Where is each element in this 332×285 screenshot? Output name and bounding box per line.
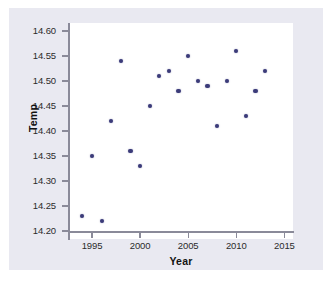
scatter-point bbox=[196, 79, 200, 83]
x-tick-label: 2015 bbox=[264, 241, 304, 251]
plot-area bbox=[68, 23, 293, 239]
x-tick-label: 2010 bbox=[216, 241, 256, 251]
y-tick bbox=[62, 30, 68, 31]
y-tick bbox=[62, 105, 68, 106]
y-tick bbox=[62, 205, 68, 206]
scatter-point bbox=[119, 59, 123, 63]
x-axis-line bbox=[68, 231, 294, 233]
y-tick-label: 14.20 bbox=[10, 226, 56, 236]
x-tick bbox=[139, 232, 140, 238]
y-axis-title: Temp bbox=[27, 88, 39, 148]
x-tick-label: 1995 bbox=[72, 241, 112, 251]
y-tick-label: 14.60 bbox=[10, 26, 56, 36]
scatter-point bbox=[100, 219, 104, 223]
y-tick bbox=[62, 80, 68, 81]
y-tick bbox=[62, 55, 68, 56]
x-tick-label: 2005 bbox=[168, 241, 208, 251]
scatter-point bbox=[244, 114, 248, 118]
x-tick bbox=[91, 232, 92, 238]
chart-figure: 14.2014.2514.3014.3514.4014.4514.5014.55… bbox=[9, 8, 323, 270]
y-tick-label: 14.25 bbox=[10, 201, 56, 211]
x-tick bbox=[284, 232, 285, 238]
x-tick bbox=[236, 232, 237, 238]
y-tick-label: 14.50 bbox=[10, 76, 56, 86]
y-tick bbox=[62, 180, 68, 181]
x-tick bbox=[188, 232, 189, 238]
scatter-point bbox=[205, 84, 209, 88]
y-tick bbox=[62, 130, 68, 131]
scatter-point bbox=[128, 149, 132, 153]
scatter-point bbox=[225, 79, 229, 83]
scatter-point bbox=[176, 89, 180, 93]
x-tick-label: 2000 bbox=[120, 241, 160, 251]
scatter-point bbox=[148, 104, 152, 108]
scatter-point bbox=[253, 89, 257, 93]
y-tick-label: 14.55 bbox=[10, 51, 56, 61]
y-tick bbox=[62, 155, 68, 156]
y-tick bbox=[62, 230, 68, 231]
y-tick-label: 14.35 bbox=[10, 151, 56, 161]
y-axis-line bbox=[68, 23, 70, 240]
x-axis-title: Year bbox=[68, 255, 294, 267]
y-tick-label: 14.30 bbox=[10, 176, 56, 186]
